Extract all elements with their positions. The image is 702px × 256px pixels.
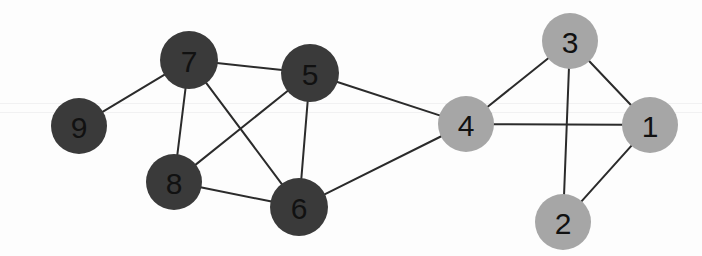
- graph-node-4[interactable]: 4: [438, 96, 494, 152]
- graph-node-circle-5[interactable]: [281, 44, 339, 102]
- graph-edge-3-1: [589, 61, 632, 106]
- network-graph-canvas: 975864312: [0, 0, 702, 256]
- graph-edge-4-3: [487, 58, 549, 107]
- graph-node-3[interactable]: 3: [542, 13, 598, 69]
- graph-node-6[interactable]: 6: [270, 178, 328, 236]
- graph-node-8[interactable]: 8: [146, 154, 202, 210]
- graph-edge-7-8: [177, 88, 185, 155]
- graph-edge-7-6: [206, 82, 282, 184]
- graph-edge-7-5: [217, 63, 282, 70]
- graph-node-5[interactable]: 5: [281, 44, 339, 102]
- graph-edge-6-4: [324, 136, 442, 195]
- graph-node-2[interactable]: 2: [535, 194, 591, 250]
- graph-node-9[interactable]: 9: [51, 98, 107, 154]
- graph-edge-4-1: [493, 124, 623, 125]
- graph-node-circle-8[interactable]: [146, 154, 202, 210]
- graph-node-circle-3[interactable]: [542, 13, 598, 69]
- graph-node-circle-2[interactable]: [535, 194, 591, 250]
- graph-node-circle-4[interactable]: [438, 96, 494, 152]
- graph-node-circle-7[interactable]: [160, 31, 218, 89]
- graph-node-1[interactable]: 1: [622, 97, 678, 153]
- graph-node-circle-1[interactable]: [622, 97, 678, 153]
- graph-edge-2-1: [581, 145, 632, 202]
- graph-edge-8-6: [200, 187, 271, 201]
- graph-node-circle-9[interactable]: [51, 98, 107, 154]
- graph-edge-5-4: [337, 82, 441, 116]
- graph-edge-3-2: [564, 68, 569, 195]
- graph-edge-5-6: [301, 101, 307, 179]
- graph-node-circle-6[interactable]: [270, 178, 328, 236]
- graph-edge-5-8: [195, 91, 288, 166]
- graph-edge-9-7: [102, 74, 165, 112]
- network-graph-figure: 975864312: [0, 0, 702, 256]
- node-layer: 975864312: [51, 13, 678, 250]
- graph-node-7[interactable]: 7: [160, 31, 218, 89]
